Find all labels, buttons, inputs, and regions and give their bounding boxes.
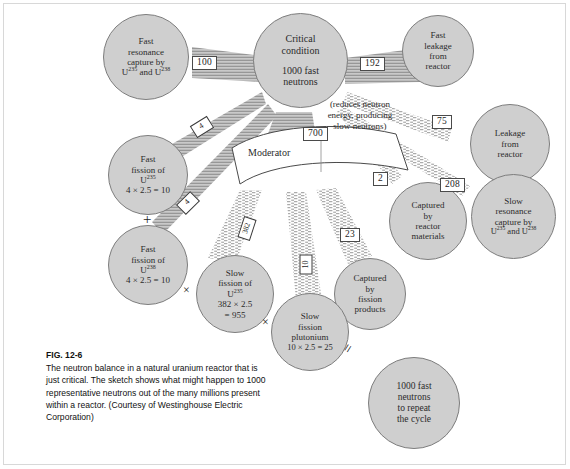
slow-resonance-capture-node[interactable]: Slow resonance capture by U235 and U238	[471, 174, 556, 259]
sfpu-line-2: fission	[298, 322, 322, 332]
crm-line-3: reactor	[416, 221, 441, 231]
moderator-note-line-3: energy,	[328, 110, 354, 120]
moderator-note: (reduces neutron energy, producing slow …	[327, 99, 393, 132]
ffu235-line-4: 4 × 2.5 = 10	[126, 185, 170, 195]
moderator-label: Moderator	[248, 147, 290, 158]
figure-label: FIG. 12-6	[46, 349, 268, 361]
flow-label-captured-fission-products: 23	[340, 228, 360, 242]
critical-line-1: Critical	[286, 33, 316, 45]
operator-times-left: ×	[183, 283, 190, 298]
sfpu-line-4: 10 × 2.5 = 25	[287, 343, 333, 353]
sfu235-line-5: = 955	[225, 310, 246, 320]
flow-label-captured-reactor-materials: 2	[373, 172, 388, 186]
frc-line-2: resonance	[128, 47, 164, 57]
flow-label-to-moderator: 700	[303, 127, 328, 141]
crm-line-1: Captured	[412, 200, 445, 210]
res-line-1: 1000 fast	[396, 381, 431, 392]
moderator-note-line-5: slow	[333, 121, 350, 131]
cfp-line-2: by	[366, 284, 375, 294]
flow-captured-fission-products	[316, 188, 372, 264]
flow-slow-fission-plutonium	[286, 192, 322, 300]
moderator-note-line-4: producing	[356, 110, 393, 120]
flow-label-slow-fission-plutonium: 10	[300, 255, 313, 275]
fast-fission-u238-node[interactable]: Fast fission of U238 4 × 2.5 = 10	[108, 225, 188, 305]
sfu235-line-4: 382 × 2.5	[218, 299, 252, 309]
fast-fission-u235-node[interactable]: Fast fission of U235 4 × 2.5 = 10	[108, 135, 188, 215]
frc-line-4: U235 and U238	[122, 67, 170, 77]
operator-plus: +	[143, 211, 151, 228]
ffu238-line-1: Fast	[140, 244, 155, 254]
lk-line-2: from	[501, 139, 519, 149]
moderator-note-line-1: (reduces	[330, 99, 360, 109]
res-line-3: to repeat	[398, 403, 431, 414]
fast-leakage-node[interactable]: Fast leakage from reactor	[402, 15, 474, 87]
ffu238-line-3: U238	[140, 265, 155, 275]
result-node[interactable]: 1000 fast neutrons to repeat the cycle	[368, 357, 460, 449]
flow-label-fast-leakage: 192	[360, 57, 385, 71]
fast-resonance-capture-node[interactable]: Fast resonance capture by U235 and U238	[103, 14, 189, 100]
src-line-4: U235 and U238	[491, 227, 537, 237]
moderator-note-line-6: neutrons)	[353, 121, 387, 131]
ffu238-line-4: 4 × 2.5 = 10	[126, 275, 170, 285]
moderator-note-line-2: neutron	[363, 99, 391, 109]
res-line-2: neutrons	[398, 392, 431, 403]
critical-condition-node[interactable]: Critical condition 1000 fast neutrons	[253, 13, 348, 108]
cfp-line-4: products	[355, 304, 386, 314]
figure-page: Moderator (reduces neutron energy, produ…	[0, 0, 570, 469]
crm-line-2: by	[424, 211, 433, 221]
fl-line-3: from	[429, 51, 447, 61]
fl-line-2: leakage	[424, 41, 451, 51]
fl-line-1: Fast	[430, 30, 445, 40]
frc-line-1: Fast	[138, 36, 153, 46]
figure-caption-text: The neutron balance in a natural uranium…	[46, 363, 266, 422]
cfp-line-1: Captured	[354, 273, 387, 283]
leakage-node[interactable]: Leakage from reactor	[470, 104, 550, 184]
ffu235-line-3: U235	[140, 175, 155, 185]
cfp-line-3: fission	[358, 294, 382, 304]
flow-label-slow-resonance-capture: 208	[440, 178, 465, 192]
operator-times-right: ×	[262, 315, 269, 330]
sfpu-line-1: Slow	[301, 311, 320, 321]
slow-fission-plutonium-node[interactable]: Slow fission plutonium 10 × 2.5 = 25	[271, 293, 349, 371]
sfu235-line-1: Slow	[226, 268, 245, 278]
crm-line-4: materials	[412, 231, 445, 241]
critical-line-4: neutrons	[283, 76, 317, 88]
src-line-2: resonance	[496, 206, 532, 216]
critical-line-3: 1000 fast	[282, 65, 319, 77]
figure-caption: FIG. 12-6 The neutron balance in a natur…	[46, 349, 268, 423]
res-line-4: the cycle	[397, 414, 431, 425]
flow-label-fast-resonance-capture: 100	[192, 56, 217, 70]
sfu235-line-3: U235	[227, 289, 242, 299]
lk-line-3: reactor	[498, 149, 523, 159]
fl-line-4: reactor	[426, 61, 451, 71]
lk-line-1: Leakage	[495, 128, 525, 138]
flow-label-leakage: 75	[432, 115, 452, 129]
critical-line-2: condition	[282, 45, 320, 57]
ffu235-line-1: Fast	[140, 154, 155, 164]
src-line-1: Slow	[504, 196, 523, 206]
